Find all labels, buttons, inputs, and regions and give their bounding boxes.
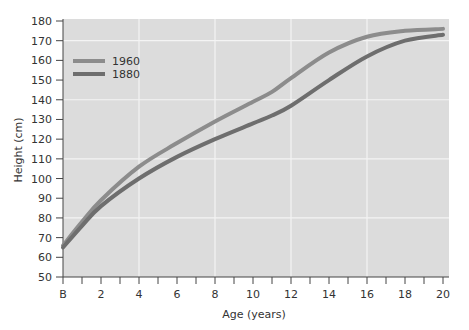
x-tick-label: 2 — [98, 288, 105, 301]
y-tick-label: 130 — [31, 113, 52, 126]
y-tick-label: 150 — [31, 74, 52, 87]
y-tick-label: 70 — [38, 232, 52, 245]
y-tick-label: 140 — [31, 94, 52, 107]
x-tick-label: 4 — [136, 288, 143, 301]
x-tick-label: 18 — [398, 288, 412, 301]
x-tick-label: 16 — [360, 288, 374, 301]
y-axis-label: Height (cm) — [12, 117, 25, 182]
y-tick-label: 90 — [38, 192, 52, 205]
legend-label-1960: 1960 — [112, 55, 140, 68]
x-tick-label: 20 — [436, 288, 450, 301]
x-axis-label: Age (years) — [222, 308, 286, 321]
x-tick-label: 12 — [284, 288, 298, 301]
y-tick-label: 100 — [31, 173, 52, 186]
y-tick-label: 50 — [38, 271, 52, 284]
y-tick-label: 110 — [31, 153, 52, 166]
y-tick-label: 160 — [31, 54, 52, 67]
y-tick-label: 60 — [38, 251, 52, 264]
x-tick-label: 10 — [246, 288, 260, 301]
y-tick-label: 120 — [31, 133, 52, 146]
height-by-age-chart: 5060708090100110120130140150160170180B24… — [0, 0, 469, 330]
y-tick-label: 80 — [38, 212, 52, 225]
x-tick-label: 14 — [322, 288, 336, 301]
x-tick-label: 8 — [212, 288, 219, 301]
y-tick-label: 170 — [31, 35, 52, 48]
x-tick-label: B — [59, 288, 67, 301]
y-tick-label: 180 — [31, 15, 52, 28]
legend-label-1880: 1880 — [112, 68, 140, 81]
x-tick-label: 6 — [174, 288, 181, 301]
